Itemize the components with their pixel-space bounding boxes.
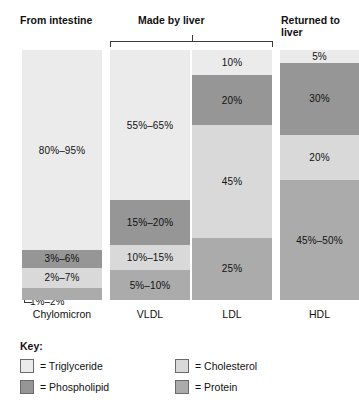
segment-chylomicron-protein	[22, 288, 102, 301]
bar-ldl: 10%20%45%25%	[192, 50, 272, 300]
category-label-ldl: LDL	[192, 308, 272, 320]
segment-label: 30%	[309, 93, 329, 104]
segment-label: 55%–65%	[127, 120, 173, 131]
segment-label: 5%–10%	[130, 280, 171, 291]
legend-label: = Triglyceride	[40, 360, 103, 372]
segment-vldl-triglyceride: 55%–65%	[110, 50, 190, 200]
segment-label: 20%	[309, 152, 329, 163]
legend-item-cholesterol: = Cholesterol	[175, 359, 330, 373]
segment-label: 25%	[222, 263, 242, 274]
segment-hdl-protein: 45%–50%	[280, 180, 359, 300]
segment-label: 3%–6%	[45, 253, 80, 264]
segment-hdl-triglyceride: 5%	[280, 50, 359, 63]
segment-label: 15%–20%	[127, 217, 173, 228]
segment-label: 45%	[222, 176, 242, 187]
segment-ldl-phospholipid: 20%	[192, 75, 272, 125]
legend-item-protein: = Protein	[175, 380, 330, 394]
bar-vldl: 55%–65%15%–20%10%–15%5%–10%	[110, 50, 190, 300]
segment-vldl-phospholipid: 15%–20%	[110, 200, 190, 245]
segment-chylomicron-phospholipid: 3%–6%	[22, 250, 102, 268]
segment-vldl-protein: 5%–10%	[110, 270, 190, 300]
segment-label: 5%	[312, 51, 327, 62]
legend-items: = Triglyceride= Cholesterol= Phospholipi…	[20, 359, 340, 394]
legend-swatch-triglyceride	[20, 359, 34, 373]
segment-label: 2%–7%	[45, 272, 80, 283]
segment-vldl-cholesterol: 10%–15%	[110, 245, 190, 270]
legend-label: = Cholesterol	[195, 360, 257, 372]
stacked-bar-chart: 1%–2% 80%–95%3%–6%2%–7%55%–65%15%–20%10%…	[0, 0, 359, 320]
segment-label: 80%–95%	[39, 145, 85, 156]
category-label-vldl: VLDL	[110, 308, 190, 320]
legend-swatch-protein	[175, 380, 189, 394]
legend-label: = Phospholipid	[40, 381, 109, 393]
segment-label: 10%–15%	[127, 252, 173, 263]
legend-item-phospholipid: = Phospholipid	[20, 380, 175, 394]
legend: Key: = Triglyceride= Cholesterol= Phosph…	[20, 340, 340, 394]
legend-item-triglyceride: = Triglyceride	[20, 359, 175, 373]
bar-chylomicron: 80%–95%3%–6%2%–7%	[22, 50, 102, 300]
segment-ldl-cholesterol: 45%	[192, 125, 272, 238]
bar-hdl: 5%30%20%45%–50%	[280, 50, 359, 300]
segment-label: 10%	[222, 57, 242, 68]
segment-hdl-phospholipid: 30%	[280, 63, 359, 136]
segment-hdl-cholesterol: 20%	[280, 135, 359, 180]
segment-label: 45%–50%	[296, 235, 342, 246]
segment-chylomicron-cholesterol: 2%–7%	[22, 268, 102, 288]
segment-label: 20%	[222, 95, 242, 106]
legend-swatch-cholesterol	[175, 359, 189, 373]
category-label-chylomicron: Chylomicron	[22, 308, 102, 320]
legend-label: = Protein	[195, 381, 237, 393]
segment-ldl-protein: 25%	[192, 238, 272, 301]
legend-swatch-phospholipid	[20, 380, 34, 394]
segment-chylomicron-triglyceride: 80%–95%	[22, 50, 102, 250]
segment-ldl-triglyceride: 10%	[192, 50, 272, 75]
category-label-hdl: HDL	[280, 308, 359, 320]
legend-title: Key:	[20, 340, 340, 352]
